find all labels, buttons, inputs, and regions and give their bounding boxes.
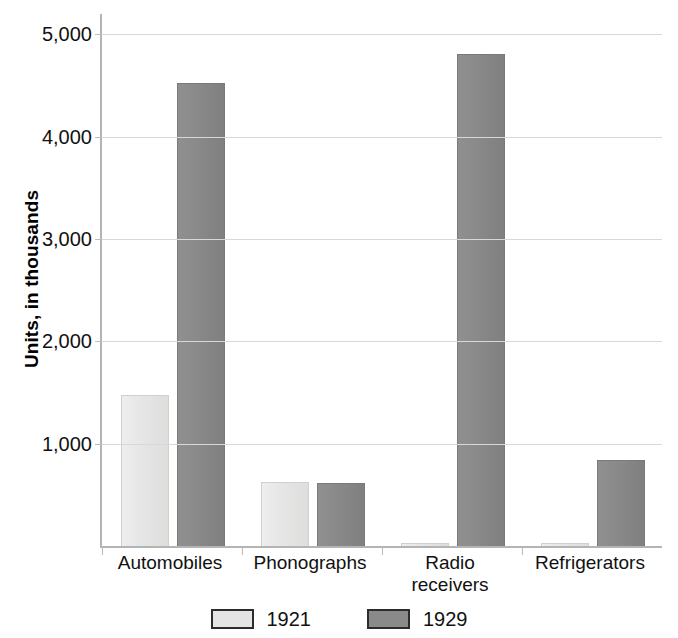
bars-layer bbox=[102, 14, 662, 546]
legend-swatch-1921 bbox=[211, 609, 254, 629]
y-axis-tick-label: 2,000 bbox=[6, 331, 92, 351]
legend-swatch-1929 bbox=[367, 609, 410, 629]
x-axis-label-line: receivers bbox=[380, 574, 520, 596]
chart-legend: 19211929 bbox=[0, 609, 678, 629]
y-axis-tick-mark bbox=[95, 137, 102, 138]
bar-refrigerators-1929 bbox=[597, 460, 645, 546]
bar-phonographs-1921 bbox=[261, 482, 309, 546]
bar-chart: Units, in thousands 1,0002,0003,0004,000… bbox=[0, 0, 678, 638]
bar-radio-receivers-1921 bbox=[401, 543, 449, 546]
x-axis-label-line: Phonographs bbox=[240, 552, 380, 574]
bar-refrigerators-1921 bbox=[541, 543, 589, 546]
y-axis-tick-mark bbox=[95, 239, 102, 240]
y-axis-tick-mark bbox=[95, 444, 102, 445]
bar-radio-receivers-1929 bbox=[457, 54, 505, 546]
gridline bbox=[102, 444, 662, 445]
y-axis-tick-labels: 1,0002,0003,0004,0005,000 bbox=[0, 0, 92, 638]
bar-automobiles-1929 bbox=[177, 83, 225, 546]
y-axis-tick-label: 1,000 bbox=[6, 434, 92, 454]
gridline bbox=[102, 239, 662, 240]
bar-automobiles-1921 bbox=[121, 395, 169, 546]
plot-area bbox=[100, 14, 662, 548]
gridline bbox=[102, 34, 662, 35]
x-axis-label-line: Automobiles bbox=[100, 552, 240, 574]
y-axis-tick-label: 4,000 bbox=[6, 127, 92, 147]
gridline bbox=[102, 341, 662, 342]
x-axis-category-labels: AutomobilesPhonographsRadioreceiversRefr… bbox=[100, 552, 660, 604]
legend-item-1921: 1921 bbox=[211, 609, 312, 629]
legend-item-1929: 1929 bbox=[367, 609, 468, 629]
y-axis-tick-label: 3,000 bbox=[6, 229, 92, 249]
y-axis-tick-label: 5,000 bbox=[6, 24, 92, 44]
x-axis-label-line: Radio bbox=[380, 552, 520, 574]
y-axis-tick-mark bbox=[95, 341, 102, 342]
x-axis-label-radio-receivers: Radioreceivers bbox=[380, 552, 520, 596]
bar-phonographs-1929 bbox=[317, 483, 365, 546]
x-axis-label-refrigerators: Refrigerators bbox=[520, 552, 660, 574]
gridline bbox=[102, 137, 662, 138]
legend-label-1929: 1929 bbox=[423, 609, 468, 629]
legend-label-1921: 1921 bbox=[267, 609, 312, 629]
x-axis-label-automobiles: Automobiles bbox=[100, 552, 240, 574]
x-axis-label-line: Refrigerators bbox=[520, 552, 660, 574]
y-axis-tick-mark bbox=[95, 34, 102, 35]
x-axis-label-phonographs: Phonographs bbox=[240, 552, 380, 574]
